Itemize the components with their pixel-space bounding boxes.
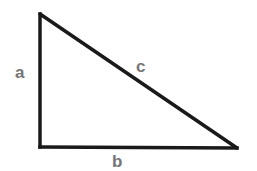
triangle <box>40 14 237 148</box>
label-b: b <box>112 152 122 171</box>
side-c-hypotenuse <box>40 14 237 148</box>
label-a: a <box>15 63 25 82</box>
label-c: c <box>136 57 145 76</box>
right-triangle-diagram: a c b <box>0 0 257 171</box>
side-b-leg <box>40 147 237 148</box>
